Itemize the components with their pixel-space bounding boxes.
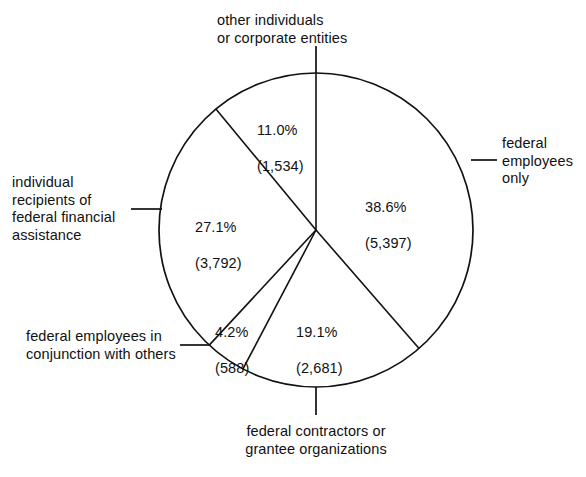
slice-count-federal-employees-only: (5,397) — [365, 235, 412, 251]
slice-value-individual-recipients: 27.1% (3,792) — [195, 200, 285, 272]
slice-count-individual-recipients: (3,792) — [195, 255, 242, 271]
slice-value-federal-contractors: 19.1% (2,681) — [296, 305, 376, 377]
slice-percent-federal-contractors: 19.1% — [296, 324, 338, 340]
slice-value-federal-employees-conjunction: 4.2% (588) — [215, 305, 285, 377]
callout-federal-contractors: federal contractors or grantee organizat… — [216, 423, 416, 458]
callout-other-individuals: other individuals or corporate entities — [217, 12, 447, 47]
callout-federal-employees-only: federal employees only — [502, 135, 586, 188]
slice-value-other-individuals: 11.0% (1,534) — [257, 103, 337, 175]
callout-federal-employees-conjunction: federal employees in conjunction with ot… — [26, 328, 182, 363]
slice-percent-federal-employees-only: 38.6% — [365, 199, 407, 215]
pie-chart-figure: other individuals or corporate entities … — [0, 0, 586, 477]
slice-count-federal-employees-conjunction: (588) — [215, 360, 249, 376]
slice-value-federal-employees-only: 38.6% (5,397) — [365, 180, 455, 252]
slice-percent-individual-recipients: 27.1% — [195, 219, 237, 235]
slice-percent-federal-employees-conjunction: 4.2% — [215, 324, 248, 340]
slice-count-other-individuals: (1,534) — [257, 158, 304, 174]
callout-individual-recipients: individual recipients of federal financi… — [12, 174, 130, 244]
slice-count-federal-contractors: (2,681) — [296, 360, 343, 376]
slice-percent-other-individuals: 11.0% — [257, 122, 298, 138]
